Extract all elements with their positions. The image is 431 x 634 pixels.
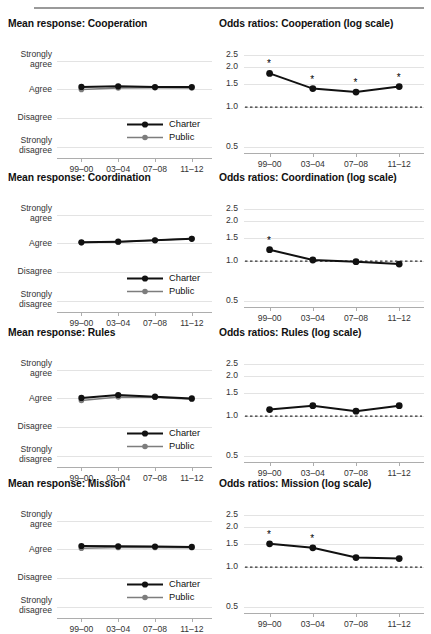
significance-asterisk: *	[354, 78, 358, 88]
series-line-odds-ratio	[270, 73, 400, 92]
legend-label-public: Public	[169, 441, 194, 451]
series-marker-odds-ratio	[396, 402, 403, 409]
legend-label-charter: Charter	[169, 428, 200, 438]
series-marker-odds-ratio	[266, 406, 273, 413]
series-marker-odds-ratio	[396, 555, 403, 562]
series-marker-charter	[189, 84, 195, 90]
series-marker-odds-ratio	[309, 544, 316, 551]
significance-asterisk: *	[310, 75, 314, 85]
series-line-charter	[81, 86, 191, 87]
legend-swatch-charter	[125, 427, 165, 440]
odds-ratio-series	[215, 172, 431, 327]
mean-response-series	[0, 478, 215, 633]
legend-swatch-public	[125, 591, 165, 604]
legend-swatch-public	[125, 440, 165, 453]
chart-row: Mean response: CoordinationStronglyagree…	[0, 172, 431, 327]
series-marker-odds-ratio	[396, 83, 403, 90]
odds-ratio-series	[215, 18, 431, 173]
series-marker-charter	[152, 394, 158, 400]
series-marker-odds-ratio	[266, 246, 273, 253]
series-line-odds-ratio	[270, 406, 400, 412]
legend-label-charter: Charter	[169, 579, 200, 589]
series-marker-charter	[115, 83, 121, 89]
legend-label-charter: Charter	[169, 119, 200, 129]
series-line-odds-ratio	[270, 250, 400, 264]
chart-row: Mean response: MissionStronglyagreeAgree…	[0, 478, 431, 633]
series-marker-charter	[78, 239, 84, 245]
series-line-odds-ratio	[270, 544, 400, 559]
panel-odds-ratios-mission: Odds ratios: Mission (log scale)2.52.01.…	[215, 478, 431, 633]
series-marker-odds-ratio	[309, 257, 316, 264]
odds-ratio-series	[215, 478, 431, 633]
series-marker-charter	[189, 544, 195, 550]
series-marker-charter	[152, 84, 158, 90]
legend-swatch-public	[125, 285, 165, 298]
series-line-charter	[81, 546, 191, 547]
mean-response-series	[0, 172, 215, 327]
series-marker-charter	[78, 84, 84, 90]
series-marker-odds-ratio	[353, 89, 360, 96]
series-marker-charter	[115, 239, 121, 245]
chart-row: Mean response: RulesStronglyagreeAgreeDi…	[0, 327, 431, 482]
panel-odds-ratios-cooperation: Odds ratios: Cooperation (log scale)2.52…	[215, 18, 431, 173]
panel-mean-response-rules: Mean response: RulesStronglyagreeAgreeDi…	[0, 327, 215, 482]
series-marker-odds-ratio	[353, 408, 360, 415]
panel-mean-response-cooperation: Mean response: CooperationStronglyagreeA…	[0, 18, 215, 173]
legend-swatch-charter	[125, 118, 165, 131]
mean-response-series	[0, 18, 215, 173]
panel-mean-response-coordination: Mean response: CoordinationStronglyagree…	[0, 172, 215, 327]
series-marker-charter	[78, 395, 84, 401]
series-marker-charter	[152, 237, 158, 243]
series-marker-charter	[115, 392, 121, 398]
odds-ratio-series	[215, 327, 431, 482]
series-marker-odds-ratio	[266, 540, 273, 547]
series-marker-odds-ratio	[309, 85, 316, 92]
significance-asterisk: *	[397, 73, 401, 83]
top-divider-rule	[34, 7, 424, 9]
series-marker-odds-ratio	[353, 258, 360, 265]
series-marker-charter	[78, 543, 84, 549]
series-marker-charter	[189, 395, 195, 401]
panel-odds-ratios-rules: Odds ratios: Rules (log scale)2.52.01.51…	[215, 327, 431, 482]
series-marker-charter	[152, 544, 158, 550]
chart-row: Mean response: CooperationStronglyagreeA…	[0, 18, 431, 173]
significance-asterisk: *	[267, 236, 271, 246]
legend-swatch-charter	[125, 578, 165, 591]
panel-mean-response-mission: Mean response: MissionStronglyagreeAgree…	[0, 478, 215, 633]
panel-odds-ratios-coordination: Odds ratios: Coordination (log scale)2.5…	[215, 172, 431, 327]
legend-label-public: Public	[169, 286, 194, 296]
significance-asterisk: *	[267, 530, 271, 540]
legend-swatch-public	[125, 131, 165, 144]
legend-label-public: Public	[169, 592, 194, 602]
series-marker-charter	[115, 543, 121, 549]
series-marker-odds-ratio	[353, 554, 360, 561]
series-marker-odds-ratio	[266, 70, 273, 77]
legend-swatch-charter	[125, 272, 165, 285]
significance-asterisk: *	[267, 59, 271, 69]
mean-response-series	[0, 327, 215, 482]
series-line-charter	[81, 239, 191, 243]
legend-label-charter: Charter	[169, 273, 200, 283]
series-marker-odds-ratio	[309, 402, 316, 409]
significance-asterisk: *	[310, 534, 314, 544]
series-marker-charter	[189, 236, 195, 242]
legend-label-public: Public	[169, 132, 194, 142]
series-marker-odds-ratio	[396, 261, 403, 268]
